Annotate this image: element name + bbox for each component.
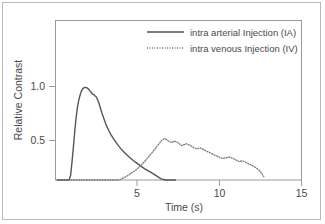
chart-plot-area: 5 10 15 1.0 0.5 Time (s) Relative Contra… (0, 0, 325, 224)
legend-label-intra-arterial: intra arterial Injection (IA) (190, 27, 296, 38)
x-tick-label-10: 10 (214, 187, 226, 199)
y-axis-ticks (49, 87, 55, 141)
legend-label-intra-venous: intra venous Injection (IV) (190, 43, 298, 54)
y-tick-label-1p0: 1.0 (30, 80, 45, 92)
y-tick-label-0p5: 0.5 (30, 134, 45, 146)
chart-legend: intra arterial Injection (IA) intra veno… (147, 27, 298, 54)
x-axis-title: Time (s) (165, 201, 203, 213)
x-tick-label-5: 5 (134, 187, 140, 199)
x-axis-ticks (137, 180, 302, 186)
y-axis-title: Relative Contrast (12, 60, 24, 141)
x-tick-label-15: 15 (296, 187, 308, 199)
figure-container: 5 10 15 1.0 0.5 Time (s) Relative Contra… (0, 0, 325, 224)
series-line-intra-venous (60, 139, 263, 180)
chart-svg: 5 10 15 1.0 0.5 Time (s) Relative Contra… (0, 0, 325, 224)
series-line-intra-arterial (57, 87, 175, 180)
